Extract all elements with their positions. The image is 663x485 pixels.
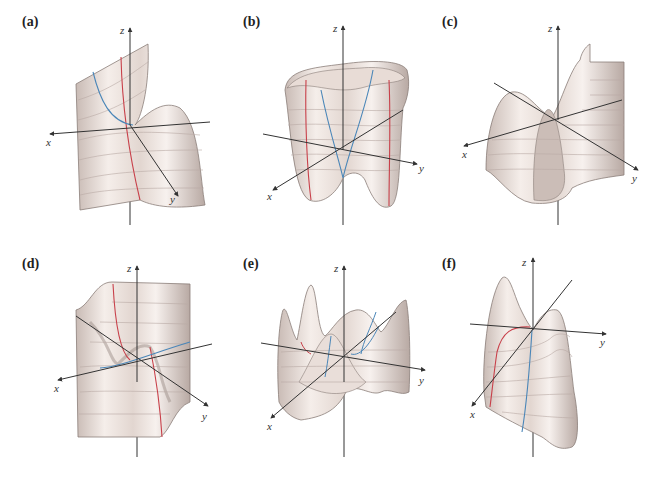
z-axis-label-d: z [126, 262, 132, 274]
surface-plot-d: x y z [0, 242, 221, 485]
surface-f [484, 277, 578, 448]
z-axis-label-e: z [333, 262, 339, 274]
panel-a: (a) x y z [0, 0, 221, 242]
surface-plot-c: x y z [442, 0, 663, 242]
surface-plot-e: x y z [221, 242, 442, 485]
x-axis-label-d: x [53, 382, 59, 394]
x-axis-label-e: x [266, 420, 272, 432]
panel-c: (c) x y z [442, 0, 663, 242]
panel-b: (b) x y z [221, 0, 442, 242]
y-axis-label-a: y [169, 193, 175, 205]
z-axis-label-a: z [119, 24, 125, 36]
panel-d: (d) x y z [0, 242, 221, 484]
y-axis-label-c: y [631, 172, 637, 184]
z-axis-label-c: z [547, 22, 553, 34]
x-axis-label-c: x [461, 148, 467, 160]
y-axis-label-d: y [201, 410, 207, 422]
surface-plot-b: x y z [221, 0, 442, 242]
x-axis-label-a: x [45, 136, 51, 148]
z-axis-label-b: z [332, 22, 338, 34]
y-axis-label-b: y [418, 162, 424, 174]
y-axis-label-e: y [418, 374, 424, 386]
y-axis-label-f: y [599, 336, 605, 348]
x-axis-label-f: x [469, 408, 475, 420]
surface-plot-f: x y z [442, 242, 663, 485]
panel-e: (e) x y z [221, 242, 442, 484]
z-axis-label-f: z [521, 256, 527, 268]
x-axis-label-b: x [266, 190, 272, 202]
panel-f: (f) x y z [442, 242, 663, 484]
surface-plot-a: x y z [0, 0, 221, 242]
